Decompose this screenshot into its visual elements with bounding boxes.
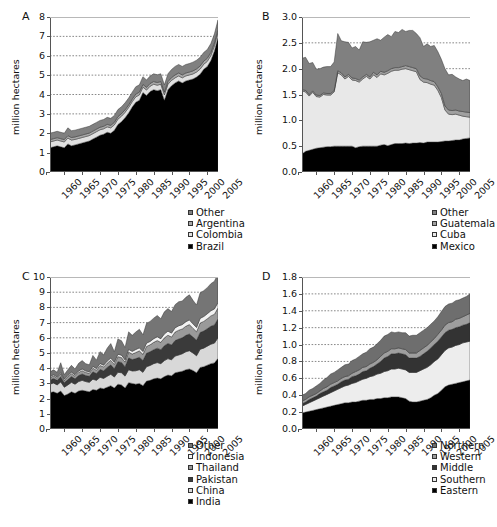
x-tick-label: 2005: [472, 176, 497, 201]
x-tick-mark: [118, 172, 119, 175]
y-tick-mark: [47, 429, 50, 430]
legend-swatch-icon: [188, 465, 193, 470]
legend-swatch-icon: [188, 232, 193, 237]
legend-swatch-icon: [432, 232, 437, 237]
x-tick-mark: [406, 429, 407, 432]
y-tick-label: 1.4: [268, 305, 297, 316]
x-tick-mark: [189, 172, 190, 175]
y-tick-label: 0: [16, 166, 45, 177]
y-tick-label: 9: [16, 286, 45, 297]
legend-label: Middle: [440, 462, 473, 473]
legend-label: India: [196, 496, 221, 507]
y-tick-label: 3: [16, 108, 45, 119]
y-tick-label: 0.2: [268, 406, 297, 417]
y-tick-label: 1.5: [268, 89, 297, 100]
legend-label: Argentina: [196, 218, 245, 229]
y-tick-label: 5: [16, 347, 45, 358]
legend-item: Other: [432, 207, 495, 218]
legend-label: Southern: [440, 474, 486, 485]
legend-swatch-icon: [432, 221, 437, 226]
legend-item: Brazil: [188, 241, 245, 252]
x-tick-mark: [172, 172, 173, 175]
x-tick-mark: [136, 172, 137, 175]
legend-item: Colombia: [188, 229, 245, 240]
y-tick-label: 1.6: [268, 288, 297, 299]
legend-label: Other: [196, 440, 224, 451]
panel-c-area-svg: [50, 277, 218, 429]
panel-d-plot: [302, 277, 470, 429]
x-tick-mark: [424, 429, 425, 432]
y-tick-label: 1: [16, 147, 45, 158]
y-tick-label: 1.2: [268, 322, 297, 333]
y-tick-label: 2: [16, 393, 45, 404]
y-tick-label: 10: [16, 271, 45, 282]
legend-item: Eastern: [432, 485, 486, 496]
y-tick-label: 7: [16, 30, 45, 41]
legend-swatch-icon: [432, 488, 437, 493]
panel-d-area-svg: [302, 277, 470, 429]
legend-item: Cuba: [432, 229, 495, 240]
x-tick-mark: [189, 429, 190, 432]
y-tick-label: 0.0: [268, 423, 297, 434]
x-tick-mark: [100, 429, 101, 432]
y-tick-label: 1: [16, 408, 45, 419]
legend-item: Indonesia: [188, 451, 244, 462]
legend-swatch-icon: [188, 210, 193, 215]
x-tick-mark: [388, 172, 389, 175]
x-tick-mark: [207, 429, 208, 432]
legend-swatch-icon: [188, 499, 193, 504]
legend-item: Mexico: [432, 241, 495, 252]
legend-item: Argentina: [188, 218, 245, 229]
x-tick-mark: [82, 172, 83, 175]
panel-d: D million hectares 0.00.20.40.60.81.01.2…: [248, 262, 497, 527]
legend-swatch-icon: [432, 477, 437, 482]
legend-label: Pakistan: [196, 474, 238, 485]
x-tick-mark: [298, 429, 299, 432]
y-tick-label: 7: [16, 317, 45, 328]
legend-item: India: [188, 496, 244, 507]
panel-b-legend: OtherGuatemalaCubaMexico: [432, 207, 495, 252]
panel-b-ylabel: million hectares: [253, 59, 264, 135]
y-tick-label: 6: [16, 50, 45, 61]
legend-item: Other: [188, 440, 244, 451]
panel-d-ylabel: million hectares: [253, 319, 264, 395]
legend-label: Indonesia: [196, 451, 244, 462]
legend-item: Southern: [432, 474, 486, 485]
y-tick-label: 3: [16, 377, 45, 388]
x-tick-mark: [424, 172, 425, 175]
legend-swatch-icon: [188, 454, 193, 459]
legend-label: Other: [196, 207, 224, 218]
legend-swatch-icon: [188, 221, 193, 226]
x-tick-mark: [64, 172, 65, 175]
legend-item: Northern: [432, 440, 486, 451]
x-tick-mark: [46, 172, 47, 175]
x-tick-mark: [154, 172, 155, 175]
x-tick-mark: [334, 172, 335, 175]
legend-label: Western: [440, 451, 481, 462]
x-tick-mark: [207, 172, 208, 175]
panel-b: B million hectares 0.00.51.01.52.02.53.0…: [248, 0, 497, 262]
x-tick-mark: [388, 429, 389, 432]
legend-item: Guatemala: [432, 218, 495, 229]
y-tick-label: 8: [16, 301, 45, 312]
legend-swatch-icon: [188, 443, 193, 448]
x-tick-mark: [352, 172, 353, 175]
y-tick-label: 0.5: [268, 140, 297, 151]
x-tick-mark: [46, 429, 47, 432]
x-tick-mark: [298, 172, 299, 175]
x-tick-mark: [154, 429, 155, 432]
legend-swatch-icon: [188, 477, 193, 482]
y-tick-label: 0.6: [268, 372, 297, 383]
x-tick-mark: [352, 429, 353, 432]
x-tick-mark: [172, 429, 173, 432]
y-tick-label: 6: [16, 332, 45, 343]
x-tick-mark: [316, 172, 317, 175]
panel-a: A million hectares 012345678 19601965197…: [0, 0, 248, 262]
x-tick-mark: [118, 429, 119, 432]
x-tick-mark: [441, 172, 442, 175]
x-tick-mark: [64, 429, 65, 432]
y-tick-label: 2.5: [268, 37, 297, 48]
panel-c-plot: [50, 277, 218, 429]
x-tick-mark: [459, 172, 460, 175]
legend-item: Middle: [432, 462, 486, 473]
